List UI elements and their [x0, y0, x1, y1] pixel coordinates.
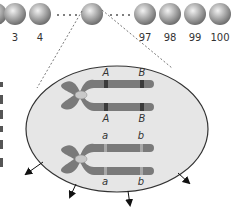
centromere — [75, 91, 87, 99]
cell-label-3: 3 — [12, 33, 18, 43]
arrow-icon — [178, 173, 189, 183]
cropped-text-fragment — [0, 126, 3, 132]
arrow-icon — [70, 184, 76, 197]
band-b-bottom — [140, 167, 143, 175]
allele-label-b-top: b — [138, 131, 144, 141]
band-B-bottom — [140, 103, 144, 111]
arrow-icon — [128, 191, 130, 205]
allele-label-a-bottom: a — [102, 177, 108, 187]
band-A-top — [104, 80, 108, 88]
centromere — [75, 155, 87, 163]
allele-label-A-top: A — [103, 68, 110, 78]
ellipsis-dots-left — [57, 14, 77, 16]
allele-label-b-bottom: b — [138, 177, 144, 187]
cell-label-97: 97 — [139, 33, 152, 43]
cropped-text-fragment — [0, 158, 3, 167]
band-A-bottom — [104, 103, 108, 111]
allele-label-A-bottom: A — [103, 114, 110, 124]
cell-label-100: 100 — [210, 33, 229, 43]
allele-label-B-bottom: B — [139, 114, 146, 124]
cell-sphere-3 — [4, 3, 26, 25]
cropped-text-fragment — [0, 95, 3, 104]
band-b-top — [140, 144, 143, 152]
cell-label-4: 4 — [37, 33, 43, 43]
allele-label-a-top: a — [102, 131, 108, 141]
cropped-text-fragment — [0, 82, 3, 87]
cropped-text-fragment — [0, 110, 3, 119]
cell-sphere-100 — [209, 3, 231, 25]
cell-sphere-97 — [134, 3, 156, 25]
cropped-text-fragment — [0, 140, 3, 149]
chromosome-diagram: 3 4 97 98 99 100 A B A B a b a b — [0, 0, 233, 210]
band-a-bottom — [104, 167, 107, 175]
ellipsis-dots-right — [110, 14, 130, 16]
band-a-top — [104, 144, 107, 152]
cell-sphere-4 — [29, 3, 51, 25]
allele-label-B-top: B — [139, 68, 146, 78]
cell-sphere-selected — [81, 3, 103, 25]
arrow-icon — [26, 162, 43, 174]
cell-sphere-98 — [159, 3, 181, 25]
cell-label-98: 98 — [164, 33, 177, 43]
cell-label-99: 99 — [189, 33, 202, 43]
cell-sphere-99 — [184, 3, 206, 25]
band-B-top — [140, 80, 144, 88]
